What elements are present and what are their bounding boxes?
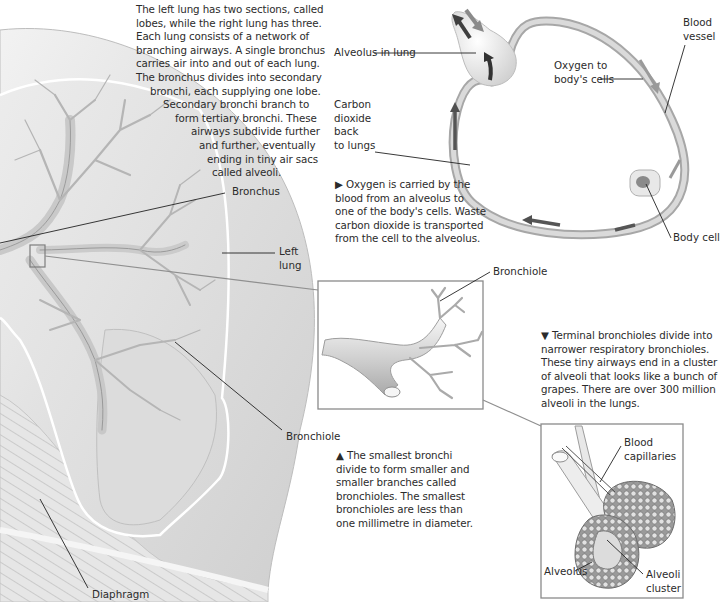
circulation-caption: ▶ Oxygen is carried by the blood from an… [335, 178, 486, 246]
intro-line: carries air into and out of each lung. [136, 57, 319, 71]
bronchiole-inset-illustration [318, 281, 483, 409]
intro-line: airways subdivide further [136, 125, 319, 139]
label-alveoli-cluster: Alveoli cluster [646, 568, 681, 595]
intro-line: lobes, while the right lung has three. [136, 17, 319, 31]
label-bronchus: Bronchus [232, 185, 280, 199]
label-carbon-dioxide: Carbon dioxide back to lungs [334, 98, 375, 152]
label-diaphragm: Diaphragm [92, 588, 149, 602]
label-bronchiole-lung: Bronchiole [286, 430, 340, 444]
intro-line: ending in tiny air sacs [136, 153, 319, 167]
label-blood-vessel: Blood vessel [683, 16, 715, 43]
intro-line: bronchi, each supplying one lobe. [136, 85, 319, 99]
intro-paragraph: The left lung has two sections, called l… [136, 3, 319, 180]
intro-line: called alveoli. [136, 166, 319, 180]
bronchiole-caption: ▲ The smallest bronchi divide to form sm… [336, 449, 473, 531]
intro-line: branching airways. A single bronchus [136, 44, 319, 58]
intro-line: form tertiary bronchi. These [136, 112, 319, 126]
label-alveolus: Alveolus [544, 565, 587, 579]
label-left-lung: Left lung [279, 245, 301, 272]
intro-line: The bronchus divides into secondary [136, 71, 319, 85]
intro-line: Secondary bronchi branch to [136, 98, 319, 112]
label-bronchiole-inset: Bronchiole [493, 265, 547, 279]
label-alveolus-in-lung: Alveolus in lung [334, 46, 416, 60]
intro-line: and further, eventually [136, 139, 319, 153]
alveoli-caption: ▼ Terminal bronchioles divide into narro… [541, 329, 717, 411]
label-oxygen-to-cells: Oxygen to body's cells [554, 59, 614, 86]
label-body-cell: Body cell [673, 231, 720, 245]
intro-line: The left lung has two sections, called [136, 3, 319, 17]
intro-line: Each lung consists of a network of [136, 30, 319, 44]
label-blood-capillaries: Blood capillaries [624, 436, 676, 463]
